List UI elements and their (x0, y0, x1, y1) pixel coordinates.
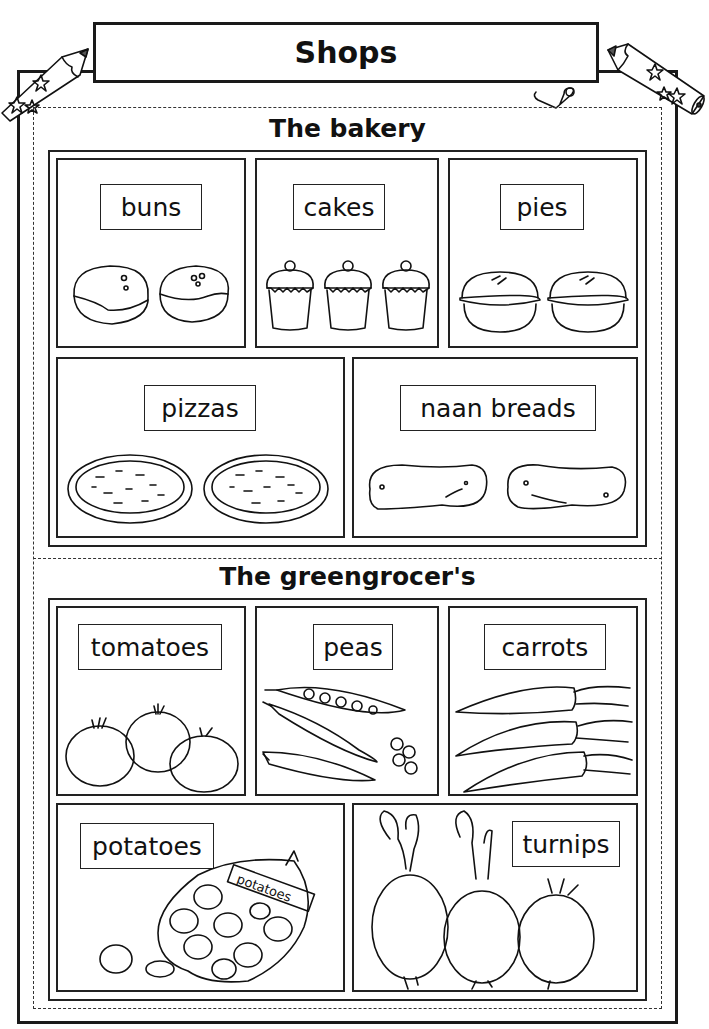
label-carrots: carrots (484, 624, 606, 670)
card-turnips: turnips (352, 803, 638, 992)
page-title: Shops (93, 22, 599, 83)
card-tomatoes: tomatoes (56, 606, 246, 796)
pie-icon (456, 270, 632, 340)
card-buns: buns (56, 158, 246, 348)
cupcake-icon (261, 256, 437, 336)
pea-pod-icon (259, 680, 439, 792)
label-tomatoes: tomatoes (78, 624, 222, 670)
label-buns: buns (100, 184, 202, 230)
section-heading-greengrocers: The greengrocer's (33, 562, 662, 591)
card-pizzas: pizzas (56, 357, 345, 538)
tomato-icon (64, 706, 244, 792)
card-carrots: carrots (448, 606, 638, 796)
card-potatoes: potatoes potatoes (56, 803, 345, 992)
section-divider (33, 558, 662, 559)
card-naan-breads: naan breads (352, 357, 638, 538)
potato-sack-icon: potatoes (98, 851, 338, 985)
label-cakes: cakes (293, 184, 385, 230)
card-pies: pies (448, 158, 638, 348)
label-naan-breads: naan breads (400, 385, 596, 431)
label-peas: peas (313, 624, 393, 670)
pizza-icon (66, 453, 338, 527)
turnip-icon (364, 809, 636, 989)
label-pizzas: pizzas (144, 385, 256, 431)
label-pies: pies (500, 184, 584, 230)
bun-icon (68, 260, 238, 330)
card-peas: peas (255, 606, 439, 796)
card-cakes: cakes (255, 158, 439, 348)
naan-bread-icon (362, 459, 634, 519)
carrot-icon (454, 682, 636, 792)
section-heading-bakery: The bakery (33, 114, 662, 143)
